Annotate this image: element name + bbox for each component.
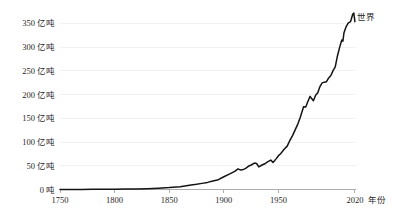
- x-tick-label: 1950: [270, 195, 287, 205]
- x-tick-label: 2020: [346, 195, 363, 205]
- series-line-world: [60, 13, 355, 189]
- series-label-world: 世界: [357, 12, 375, 22]
- x-tick-label: 1750: [52, 195, 69, 205]
- x-axis-title: 年份: [368, 195, 386, 205]
- gridlines: [60, 23, 356, 165]
- y-tick-label: 300 亿吨: [22, 42, 55, 52]
- y-tick-label: 150 亿吨: [22, 113, 55, 123]
- x-tick-label: 1850: [161, 195, 178, 205]
- emissions-line-chart: 0 吨50 亿吨100 亿吨150 亿吨200 亿吨250 亿吨300 亿吨35…: [0, 0, 399, 224]
- y-axis-tick-labels: 0 吨50 亿吨100 亿吨150 亿吨200 亿吨250 亿吨300 亿吨35…: [22, 18, 55, 194]
- x-axis-tick-labels: 175018001850190019502020: [52, 190, 364, 205]
- y-tick-label: 200 亿吨: [22, 90, 55, 100]
- y-tick-label: 0 吨: [40, 185, 55, 195]
- y-tick-label: 50 亿吨: [26, 161, 55, 171]
- y-tick-label: 100 亿吨: [22, 137, 55, 147]
- x-tick-label: 1900: [215, 195, 232, 205]
- y-tick-label: 350 亿吨: [22, 18, 55, 28]
- y-tick-label: 250 亿吨: [22, 66, 55, 76]
- chart-container: 0 吨50 亿吨100 亿吨150 亿吨200 亿吨250 亿吨300 亿吨35…: [0, 0, 399, 224]
- x-tick-label: 1800: [106, 195, 123, 205]
